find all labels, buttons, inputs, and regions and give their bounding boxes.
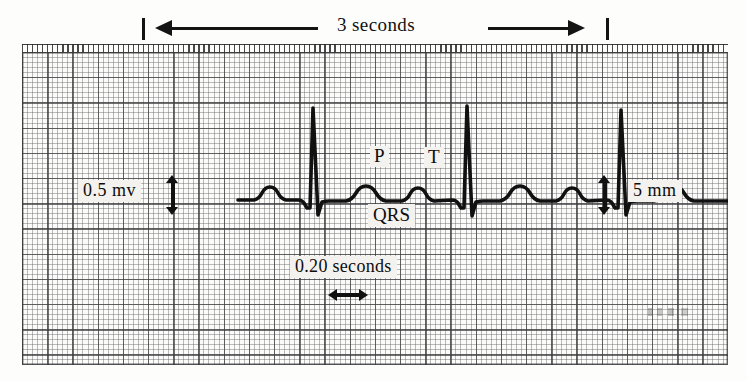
arrow-up-down-icon <box>596 175 614 215</box>
duration-measure-header: 3 seconds <box>0 0 747 44</box>
duration-label: 3 seconds <box>330 14 422 36</box>
scan-smudge-artifact <box>648 308 692 316</box>
arrow-shaft <box>171 181 175 209</box>
arrow-right-icon <box>568 20 585 36</box>
duration-left-tick <box>142 18 145 40</box>
label-voltage: 0.5 mv <box>78 180 141 202</box>
label-amplitude: 5 mm <box>628 180 682 202</box>
label-t-wave: T <box>424 147 444 168</box>
arrow-shaft <box>603 181 607 209</box>
ecg-diagram-figure: 3 seconds P T QRS 0.5 mv 5 mm 0.20 secon… <box>0 0 747 381</box>
label-p-wave: P <box>370 146 389 167</box>
arrow-left-right-icon <box>328 288 368 303</box>
duration-right-shaft <box>488 27 568 30</box>
arrowhead-down <box>598 207 610 215</box>
arrow-shaft <box>335 293 361 296</box>
arrowhead-down <box>166 207 178 215</box>
label-qrs-complex: QRS <box>368 204 415 227</box>
duration-left-shaft <box>171 27 318 30</box>
arrowhead-right <box>359 289 368 301</box>
label-interval: 0.20 seconds <box>290 256 397 278</box>
duration-right-tick <box>606 18 609 40</box>
arrow-left-icon <box>155 20 172 36</box>
arrow-up-down-icon <box>164 175 182 215</box>
